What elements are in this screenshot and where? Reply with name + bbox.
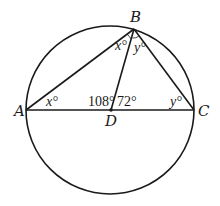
angle-label-C: y°: [168, 94, 182, 109]
geometry-diagram: B A C D x° x° y° y° 108° 72°: [0, 0, 220, 206]
label-B: B: [129, 8, 141, 26]
angle-label-A: x°: [45, 94, 58, 109]
angle-label-DBC: y°: [132, 40, 146, 55]
label-D: D: [104, 112, 117, 130]
label-C: C: [198, 102, 210, 120]
angle-arc-ABD: [127, 34, 131, 39]
angle-label-ABD: x°: [114, 38, 127, 53]
angle-label-ADB: 108°: [88, 94, 115, 109]
angle-label-BDC: 72°: [117, 94, 137, 109]
label-A: A: [12, 102, 25, 120]
angle-arc-DBC: [133, 36, 140, 38]
